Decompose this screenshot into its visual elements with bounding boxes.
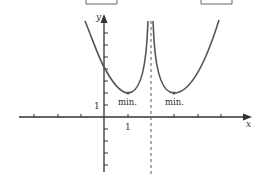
function-graph: y x 1 1 min. min. [0, 0, 272, 184]
x-axis-label: x [246, 119, 251, 129]
min-label-left: min. [118, 97, 137, 107]
min-point-left [126, 91, 129, 94]
left-branch-curve [85, 21, 148, 93]
y-axis-arrow-icon [101, 14, 108, 23]
y-axis-label: y [95, 12, 102, 22]
top-left-box [86, 0, 117, 4]
x-axis [19, 114, 252, 121]
min-label-right: min. [165, 97, 184, 107]
y-tick-label-1: 1 [94, 101, 100, 111]
right-branch-curve [153, 20, 219, 93]
min-point-right [172, 91, 175, 94]
y-axis [101, 14, 109, 172]
top-right-box [201, 0, 232, 4]
x-tick-label-1: 1 [125, 122, 131, 132]
